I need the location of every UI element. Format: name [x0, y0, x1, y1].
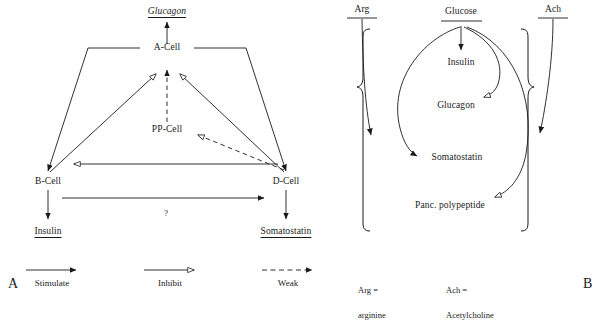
node-insulin: Insulin	[447, 57, 474, 68]
node-insulin: Insulin	[34, 226, 61, 237]
bracket-right-islet-group	[521, 29, 534, 231]
panel-a-letter: A	[8, 276, 18, 292]
node-d-cell: D-Cell	[273, 176, 299, 187]
uncertain-relation-question-mark: ?	[164, 208, 168, 218]
abbreviation-arg-expansion: arginine	[358, 310, 386, 320]
legend-label-inhibit: Inhibit	[158, 278, 182, 288]
arrow-acell-to-bcell	[48, 48, 140, 171]
abbreviation-arg-term: Arg =	[358, 285, 378, 295]
panel-b-secretagogue-regulation: Arg Glucose Ach Insulin Glucagon Somatos…	[340, 0, 604, 309]
arrow-acell-to-dcell	[194, 48, 286, 171]
arrow-glucose-to-somatostatin	[398, 27, 460, 156]
bracket-left-islet-group	[357, 29, 370, 231]
node-glucagon: Glucagon	[148, 6, 186, 17]
node-pp-cell: PP-Cell	[152, 124, 182, 135]
legend-label-weak: Weak	[278, 278, 298, 288]
node-somatostatin: Somatostatin	[261, 226, 312, 237]
abbreviation-ach: Ach = Acetylcholine	[446, 272, 494, 321]
node-b-cell: B-Cell	[35, 176, 61, 187]
node-panc-polypeptide: Panc. polypeptide	[415, 200, 485, 211]
node-glucagon: Glucagon	[437, 100, 475, 111]
legend-label-stimulate: Stimulate	[35, 278, 70, 288]
node-a-cell: A-Cell	[154, 42, 180, 53]
abbreviation-ach-term: Ach =	[446, 285, 467, 295]
arrow-bcell-to-acell-inhibit	[50, 74, 156, 172]
node-glucose: Glucose	[445, 6, 477, 17]
node-ach: Ach	[545, 4, 561, 15]
abbreviation-arg: Arg = arginine	[358, 272, 386, 321]
node-somatostatin: Somatostatin	[432, 152, 483, 163]
arrow-dcell-to-acell-inhibit	[180, 74, 284, 172]
panel-a-islet-cell-interactions: Glucagon A-Cell PP-Cell B-Cell D-Cell In…	[0, 0, 340, 309]
abbreviation-ach-expansion: Acetylcholine	[446, 310, 494, 320]
panel-b-letter: B	[583, 276, 592, 292]
node-arg: Arg	[355, 4, 370, 15]
arrow-ach-to-islet	[540, 19, 553, 133]
arrow-dcell-to-ppcell-weak	[198, 135, 284, 170]
arrow-glucose-to-panc-polypeptide-inhibit	[467, 27, 528, 197]
